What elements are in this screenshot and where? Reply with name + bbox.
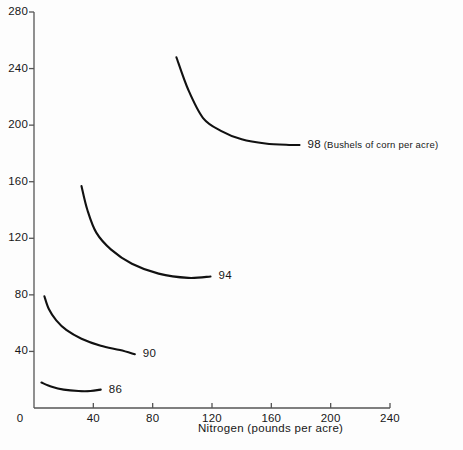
- curve-label-90: 90: [143, 347, 156, 359]
- y-axis-tick-label: 80: [0, 288, 28, 300]
- y-axis-tick-label: 200: [0, 118, 28, 130]
- curve-label-94: 94: [219, 269, 232, 281]
- curve-98: [176, 57, 299, 145]
- curve-94: [81, 186, 210, 278]
- nitrogen-corn-yield-chart: 04080120160200240280 4080120160200240 98…: [0, 0, 463, 450]
- y-axis-tick-label: 40: [0, 344, 28, 356]
- y-axis-ticks: [29, 12, 34, 351]
- x-axis-ticks: [93, 403, 390, 408]
- y-axis-tick-label: 120: [0, 231, 28, 243]
- plot-area: [0, 0, 463, 450]
- x-axis-tick-label: 80: [133, 412, 173, 424]
- curve-label-value: 98: [308, 138, 321, 150]
- x-axis-tick-label: 240: [370, 412, 410, 424]
- y-axis-tick-label: 0: [0, 412, 40, 424]
- curve-90: [44, 296, 134, 354]
- x-axis-tick-label: 40: [73, 412, 113, 424]
- curve-86: [41, 383, 100, 392]
- curve-label-value: 86: [109, 383, 122, 395]
- curve-label-unit-note: (Bushels of corn per acre): [321, 139, 438, 150]
- curve-label-98: 98 (Bushels of corn per acre): [308, 138, 439, 150]
- y-axis-tick-label: 280: [0, 5, 28, 17]
- data-curves: [41, 57, 299, 391]
- curve-label-value: 94: [219, 269, 232, 281]
- y-axis-tick-label: 240: [0, 62, 28, 74]
- y-axis-tick-label: 160: [0, 175, 28, 187]
- x-axis-title: Nitrogen (pounds per acre): [198, 422, 343, 434]
- curve-label-value: 90: [143, 347, 156, 359]
- curve-label-86: 86: [109, 383, 122, 395]
